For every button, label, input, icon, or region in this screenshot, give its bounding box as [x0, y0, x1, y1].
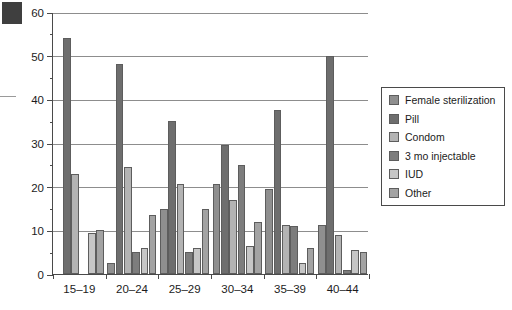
x-axis-label: 35–39 [274, 283, 306, 295]
bar [63, 38, 71, 274]
bar [160, 209, 168, 275]
bar [193, 248, 201, 274]
legend-swatch-icon [389, 151, 399, 161]
bar [149, 215, 157, 274]
y-axis-label: 60 [31, 7, 44, 19]
bar [124, 167, 132, 274]
bar [185, 252, 193, 274]
y-axis-label: 40 [31, 94, 44, 106]
bar [168, 121, 176, 274]
x-axis-label: 40–44 [327, 283, 359, 295]
bar-group [53, 13, 106, 274]
bar [177, 184, 185, 274]
legend-item[interactable]: Condom [389, 132, 498, 143]
legend-swatch-icon [389, 114, 399, 124]
bar-group [158, 13, 211, 274]
bar [290, 226, 298, 274]
bar [141, 248, 149, 274]
y-axis-label: 0 [38, 269, 44, 281]
legend-swatch-icon [389, 169, 399, 179]
x-axis-tick [211, 274, 212, 279]
bar [246, 246, 254, 274]
bar-group [106, 13, 159, 274]
legend-item-label: Female sterilization [405, 95, 495, 106]
bar [326, 56, 334, 274]
bar [299, 263, 307, 274]
legend-swatch-icon [389, 188, 399, 198]
bar-group [264, 13, 317, 274]
y-axis-label: 20 [31, 182, 44, 194]
bar [282, 225, 290, 274]
bar-chart-figure: 010203040506015–1920–2425–2930–3435–3940… [0, 0, 512, 310]
x-axis-tick [369, 274, 370, 279]
scan-artifact-block [2, 2, 22, 24]
bar [71, 174, 79, 274]
scan-artifact-line [0, 96, 16, 97]
bar [221, 145, 229, 274]
legend-item[interactable]: Pill [389, 114, 498, 125]
y-axis-label: 50 [31, 51, 44, 63]
bar [274, 110, 282, 274]
x-axis-label: 15–19 [63, 283, 95, 295]
x-axis-tick [316, 274, 317, 279]
legend-item[interactable]: IUD [389, 169, 498, 180]
legend-swatch-icon [389, 132, 399, 142]
x-axis-tick [106, 274, 107, 279]
bar [335, 235, 343, 274]
bar [254, 222, 262, 274]
x-axis-tick [158, 274, 159, 279]
bar [88, 233, 96, 274]
bar [265, 189, 273, 274]
legend-item[interactable]: Other [389, 188, 498, 199]
bar [132, 252, 140, 274]
bar [343, 270, 351, 274]
x-axis-label: 25–29 [169, 283, 201, 295]
bar [307, 248, 315, 274]
legend-item[interactable]: 3 mo injectable [389, 151, 498, 162]
bar [318, 225, 326, 274]
legend-item-label: Condom [405, 132, 445, 143]
chart-legend: Female sterilizationPillCondom3 mo injec… [381, 87, 505, 206]
legend-item-label: 3 mo injectable [405, 151, 476, 162]
bar-group [316, 13, 369, 274]
x-axis-label: 30–34 [221, 283, 253, 295]
legend-swatch-icon [389, 95, 399, 105]
legend-item-label: Other [405, 188, 431, 199]
legend-item-label: IUD [405, 169, 423, 180]
bar [360, 252, 368, 274]
bar [351, 250, 359, 274]
bar [107, 263, 115, 274]
plot-area: 010203040506015–1920–2425–2930–3435–3940… [52, 13, 368, 275]
bar-group [211, 13, 264, 274]
bar [238, 165, 246, 274]
legend-item[interactable]: Female sterilization [389, 95, 498, 106]
legend-item-label: Pill [405, 114, 419, 125]
bar [116, 64, 124, 274]
bar [202, 209, 210, 274]
y-axis-label: 30 [31, 138, 44, 150]
bar [213, 184, 221, 274]
x-axis-tick [264, 274, 265, 279]
x-axis-tick [53, 274, 54, 279]
bar [96, 230, 104, 274]
bar [229, 200, 237, 274]
x-axis-label: 20–24 [116, 283, 148, 295]
y-axis-label: 10 [31, 225, 44, 237]
